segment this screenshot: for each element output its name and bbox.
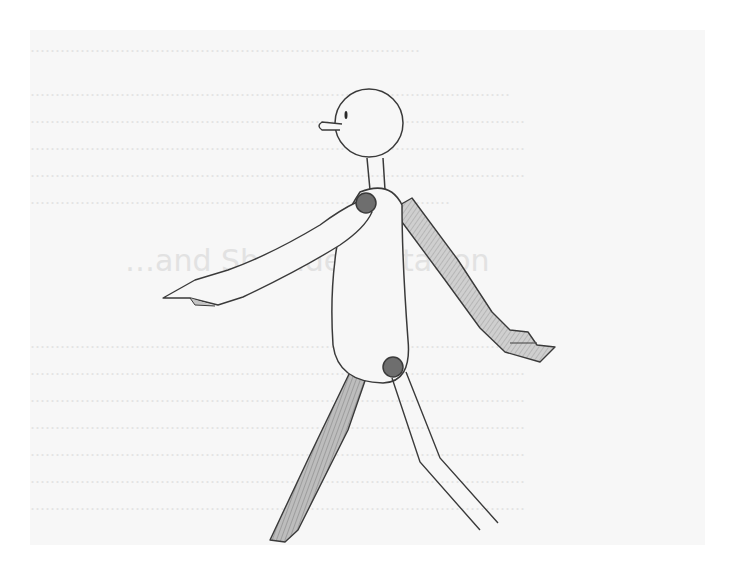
shoulder-joint [356,193,376,213]
neck [367,158,385,190]
hip-joint [383,357,403,377]
back-leg [270,372,367,542]
head [319,89,403,157]
eye-icon [345,111,348,119]
front-leg [392,372,498,530]
walking-figure-sketch [0,0,734,576]
beak-icon [319,122,342,130]
back-arm [398,198,555,362]
